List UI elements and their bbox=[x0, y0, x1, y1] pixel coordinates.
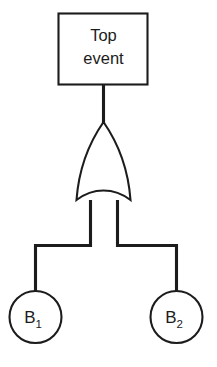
fault-tree-canvas: Top event B1 B2 bbox=[0, 0, 217, 367]
top-event-label-line1: Top bbox=[90, 26, 117, 44]
or-gate-symbol bbox=[77, 122, 131, 200]
basic-event-label-2-base: B bbox=[165, 308, 176, 327]
basic-event-label-1-base: B bbox=[24, 308, 35, 327]
fault-tree-diagram: Top event B1 B2 bbox=[0, 0, 217, 367]
basic-event-circle-1 bbox=[10, 291, 62, 343]
connector-gate-to-basic-event-1 bbox=[36, 200, 91, 291]
basic-event-label-2-subscript: 2 bbox=[176, 318, 182, 330]
connector-gate-to-basic-event-2 bbox=[118, 200, 177, 291]
basic-event-circle-2 bbox=[151, 291, 203, 343]
top-event-label-line2: event bbox=[83, 49, 124, 67]
basic-event-label-1-subscript: 1 bbox=[35, 318, 41, 330]
